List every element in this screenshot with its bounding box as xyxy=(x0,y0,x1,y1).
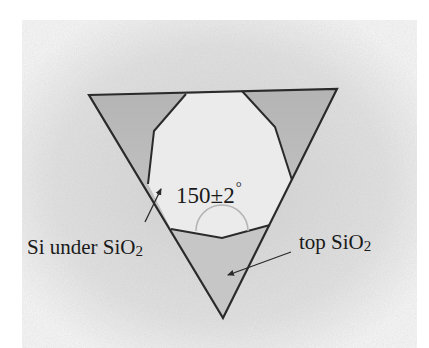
angle-degree: ° xyxy=(236,179,242,195)
label-si-under-sub: 2 xyxy=(136,243,144,259)
diagram-figure: 150±2° Si under SiO2 top SiO2 xyxy=(0,0,429,348)
label-top-sio2: top SiO2 xyxy=(299,232,371,254)
diagram-canvas xyxy=(0,0,429,348)
label-si-under-sio2: Si under SiO2 xyxy=(27,237,143,259)
angle-label: 150±2° xyxy=(176,184,242,207)
label-si-under-main: Si under SiO xyxy=(27,235,136,259)
angle-pm: ± xyxy=(211,183,224,208)
angle-value: 150 xyxy=(176,183,211,208)
label-top-sio2-sub: 2 xyxy=(364,238,372,254)
label-top-sio2-main: top SiO xyxy=(299,230,364,254)
angle-tolerance: 2 xyxy=(223,183,235,208)
